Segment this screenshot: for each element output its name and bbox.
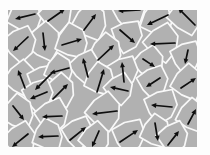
arrow-shaft [47,116,62,117]
domain-region [0,0,205,155]
arrow-shaft [43,136,58,137]
magnetic-domains-figure [0,0,210,155]
arrow-shaft [155,43,175,44]
domains-svg [0,0,210,155]
arrow-shaft [123,10,140,11]
